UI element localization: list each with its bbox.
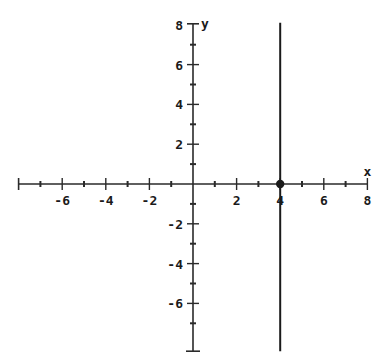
x-tick-label: -2	[142, 193, 158, 208]
y-tick-label: 4	[175, 97, 183, 112]
plotted-points	[276, 180, 284, 188]
x-axis-label: x	[363, 164, 371, 179]
x-tick-label: -6	[54, 193, 70, 208]
y-tick-label: -6	[167, 296, 183, 311]
y-tick-label: -2	[167, 217, 183, 232]
y-tick-label: 6	[175, 58, 183, 73]
axes	[19, 24, 368, 351]
x-tick-label: -4	[98, 193, 114, 208]
x-tick-label: 8	[363, 193, 371, 208]
coordinate-plane: -6-4-224688642-2-4-6 x y	[0, 0, 392, 362]
y-tick-label: 8	[175, 18, 183, 33]
y-tick-label: -4	[167, 257, 183, 272]
x-tick-label: 6	[320, 193, 328, 208]
tick-labels: -6-4-224688642-2-4-6	[54, 18, 371, 312]
x-tick-label: 2	[233, 193, 241, 208]
y-tick-label: 2	[175, 137, 183, 152]
y-axis-label: y	[201, 16, 209, 31]
intersection-point	[276, 180, 284, 188]
